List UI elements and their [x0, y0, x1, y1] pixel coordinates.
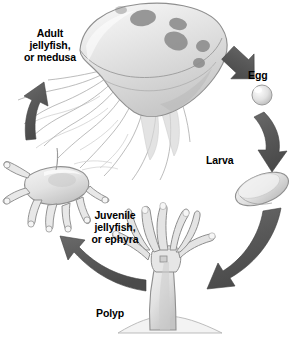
label-juvenile-jellyfish: Juvenile jellyfish, or ephyra [68, 210, 162, 245]
label-adult-line2: jellyfish, [2, 40, 98, 52]
jellyfish-life-cycle-diagram: Adult jellyfish, or medusa Egg Larva Juv… [0, 0, 291, 341]
label-adult-line1: Adult [2, 28, 98, 40]
arrow-egg-to-larva [254, 112, 287, 172]
planula-larva-icon [231, 166, 291, 213]
label-adult-jellyfish: Adult jellyfish, or medusa [2, 28, 98, 63]
label-egg: Egg [248, 70, 288, 82]
label-larva-line1: Larva [206, 155, 256, 167]
label-juvenile-line3: or ephyra [68, 234, 162, 246]
label-egg-line1: Egg [248, 70, 288, 82]
label-juvenile-line2: jellyfish, [68, 222, 162, 234]
arrow-juvenile-to-adult [24, 82, 48, 140]
arrow-larva-to-polyp [207, 208, 281, 289]
label-polyp: Polyp [96, 308, 148, 320]
label-juvenile-line1: Juvenile [68, 210, 162, 222]
label-larva: Larva [206, 155, 256, 167]
label-polyp-line1: Polyp [96, 308, 148, 320]
egg-icon [252, 85, 272, 105]
label-adult-line3: or medusa [2, 52, 98, 64]
